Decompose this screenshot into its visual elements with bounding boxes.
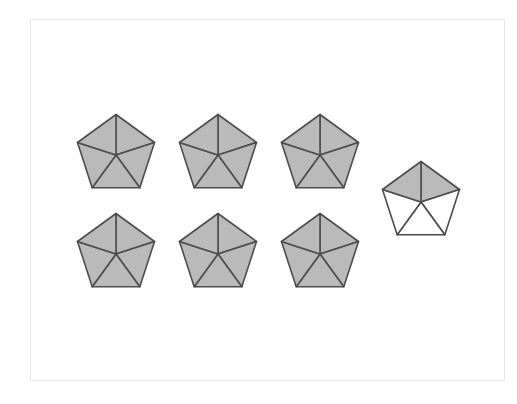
pentagon-5	[179, 214, 256, 287]
fraction-diagram	[0, 0, 517, 404]
pentagon-3	[281, 115, 358, 188]
pentagon-6	[281, 214, 358, 287]
pentagon-7	[382, 162, 459, 235]
pentagon-2	[179, 115, 256, 188]
pentagon-1	[77, 115, 154, 188]
pentagon-4	[77, 214, 154, 287]
